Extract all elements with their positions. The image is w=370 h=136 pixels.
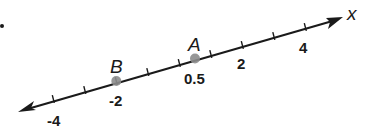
stray-dot	[0, 24, 4, 28]
point-b	[111, 76, 121, 86]
tick-label-minus-4: -4	[47, 112, 61, 129]
tick-label-0-5: 0.5	[184, 70, 205, 87]
point-a-label: A	[187, 34, 201, 55]
number-line-diagram: B A -4 -2 0.5 2 4 x	[0, 0, 370, 136]
point-a	[190, 54, 200, 64]
number-line-canvas: B A -4 -2 0.5 2 4 x	[0, 0, 370, 136]
tick-label-2: 2	[237, 55, 245, 72]
tick-label-4: 4	[299, 39, 308, 56]
tick-label-minus-2: -2	[109, 92, 122, 109]
point-b-label: B	[110, 56, 123, 77]
axis-label-x: x	[346, 3, 358, 24]
